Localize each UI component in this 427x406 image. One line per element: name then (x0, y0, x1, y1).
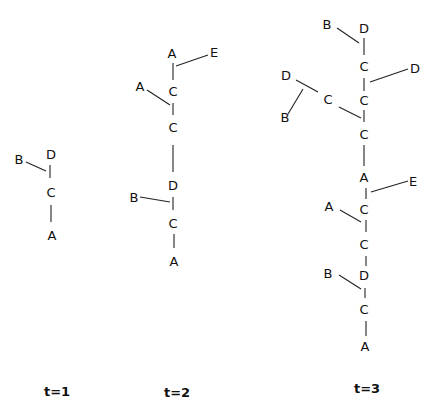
tree-edge (339, 107, 361, 118)
tree-node-c: C (359, 302, 368, 317)
tree-node-a: A (361, 339, 370, 354)
tree-node-a: A (168, 46, 177, 61)
tree-node-a: A (360, 170, 369, 185)
tree-node-c: C (168, 120, 177, 135)
tree-edge (340, 210, 361, 222)
caption-t2: t=2 (164, 385, 190, 400)
tree-panel-t1: BDCA (15, 147, 57, 243)
tree-edge (140, 197, 170, 202)
tree-node-a: A (136, 79, 145, 94)
tree-node-c: C (359, 93, 368, 108)
caption-t3: t=3 (354, 381, 380, 396)
tree-node-c: C (168, 84, 177, 99)
tree-panel-t2: AEACCDBCA (130, 45, 219, 269)
tree-node-c: C (46, 185, 55, 200)
tree-node-c: C (323, 92, 332, 107)
tree-node-c: C (168, 216, 177, 231)
tree-node-b: B (15, 152, 24, 167)
tree-node-b: B (324, 266, 333, 281)
tree-edge (147, 90, 170, 105)
tree-node-a: A (170, 254, 179, 269)
tree-node-c: C (359, 237, 368, 252)
tree-edge (339, 275, 361, 289)
tree-edge (337, 28, 359, 43)
tree-node-d: D (281, 68, 291, 83)
tree-node-d: D (168, 178, 178, 193)
tree-node-e: E (210, 45, 218, 60)
tree-panel-t3: BDCDDCCBCAEACCBDCA (281, 17, 420, 354)
tree-node-c: C (359, 59, 368, 74)
tree-edge (296, 80, 318, 92)
tree-edge (288, 89, 303, 114)
tree-node-e: E (409, 174, 417, 189)
tree-node-b: B (130, 190, 139, 205)
tree-node-b: B (323, 17, 332, 32)
tree-node-d: D (410, 61, 420, 76)
tree-edge (26, 162, 46, 171)
tree-node-b: B (281, 110, 290, 125)
tree-edge (371, 181, 408, 192)
tree-node-a: A (325, 199, 334, 214)
caption-t1: t=1 (44, 384, 70, 399)
tree-diagram-canvas: BDCA AEACCDBCA BDCDDCCBCAEACCBDCA t=1 t=… (0, 0, 427, 406)
tree-node-a: A (48, 228, 57, 243)
tree-edge (176, 55, 208, 66)
tree-node-d: D (46, 147, 56, 162)
tree-node-c: C (359, 202, 368, 217)
tree-edge (370, 69, 408, 82)
tree-node-d: D (359, 268, 369, 283)
tree-node-d: D (359, 21, 369, 36)
tree-node-c: C (359, 127, 368, 142)
